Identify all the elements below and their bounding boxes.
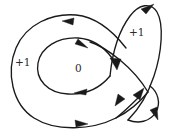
arrow-bottom-outer-arc-icon <box>75 120 88 127</box>
region-label-right: +1 <box>129 27 144 38</box>
arrow-lower-v-left-icon <box>115 94 125 106</box>
arrow-top-outer-arc-icon <box>62 18 74 25</box>
curve-diagram-svg <box>0 0 172 136</box>
arrow-inner-loop-top-icon <box>75 39 88 48</box>
region-label-center: 0 <box>75 63 82 74</box>
region-label-left: +1 <box>15 57 30 68</box>
crossing-strand-path <box>90 42 148 92</box>
curve-diagram-figure: +1 0 +1 <box>0 0 172 136</box>
